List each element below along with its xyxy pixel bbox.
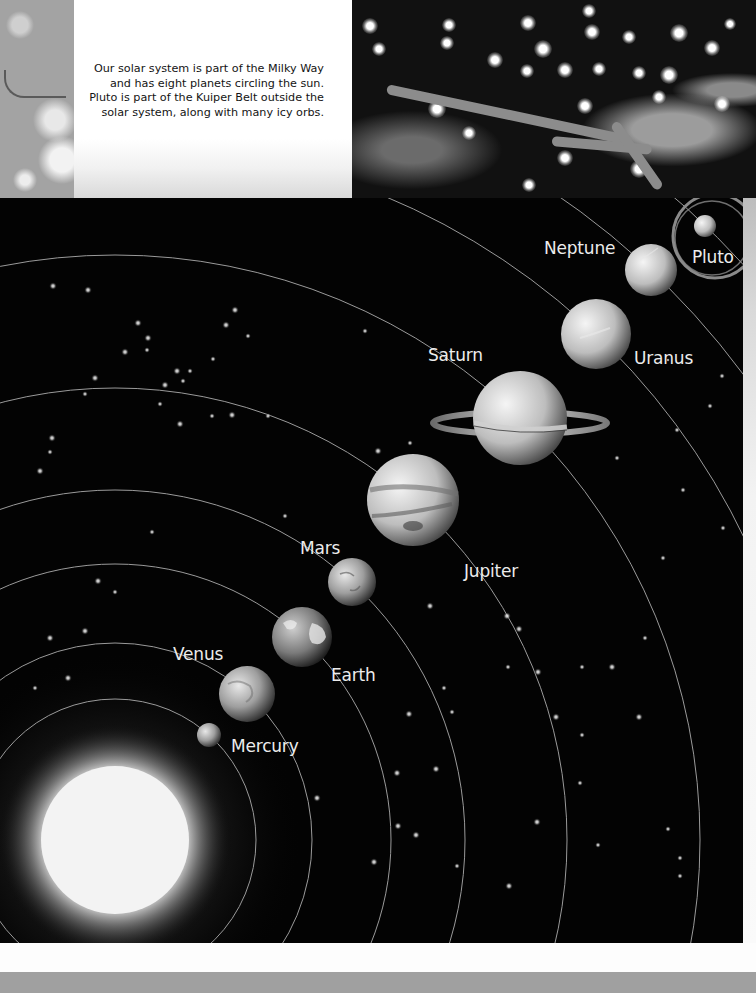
- intro-box: Our solar system is part of the Milky Wa…: [74, 0, 352, 198]
- intro-text: Our solar system is part of the Milky Wa…: [84, 62, 324, 120]
- comet-trail: [610, 120, 664, 191]
- star: [577, 98, 593, 114]
- star: [582, 4, 596, 18]
- star: [714, 96, 730, 112]
- star: [520, 64, 534, 78]
- star: [557, 62, 573, 78]
- decorative-texture-right: [743, 198, 756, 943]
- label-uranus: Uranus: [634, 348, 693, 368]
- planet-pluto: [694, 215, 716, 237]
- star: [522, 178, 536, 192]
- bottom-gray-band: [0, 972, 756, 993]
- decorative-starfield-top: [352, 0, 756, 198]
- star: [487, 52, 503, 68]
- bottom-margin: [0, 943, 756, 972]
- label-saturn: Saturn: [428, 345, 483, 365]
- texture-crack: [4, 70, 66, 98]
- star: [520, 15, 536, 31]
- label-mercury: Mercury: [231, 736, 299, 756]
- star: [372, 42, 386, 56]
- solar-system-diagram: Mercury Venus Earth Mars Jupiter Saturn …: [0, 198, 743, 943]
- label-mars: Mars: [300, 538, 340, 558]
- label-venus: Venus: [173, 644, 223, 664]
- star: [632, 66, 646, 80]
- planet-mars: [328, 558, 376, 606]
- star: [534, 40, 552, 58]
- decorative-texture-left: [0, 0, 74, 200]
- comet-trail: [386, 84, 633, 146]
- star: [592, 62, 606, 76]
- label-pluto: Pluto: [692, 247, 734, 267]
- planet-saturn: [433, 371, 607, 465]
- label-neptune: Neptune: [544, 238, 615, 258]
- star: [622, 30, 636, 44]
- star: [462, 126, 476, 140]
- star: [724, 18, 736, 30]
- planet-mercury: [197, 723, 221, 747]
- planet-uranus: [561, 299, 631, 369]
- planet-jupiter: [367, 454, 459, 546]
- star: [442, 18, 456, 32]
- planet-neptune: [625, 244, 677, 296]
- star: [362, 18, 378, 34]
- star: [670, 24, 688, 42]
- star: [557, 150, 573, 166]
- star: [584, 24, 600, 40]
- star: [660, 66, 678, 84]
- star: [652, 90, 666, 104]
- label-earth: Earth: [331, 665, 376, 685]
- sun: [41, 766, 189, 914]
- planet-earth: [272, 607, 332, 667]
- label-jupiter: Jupiter: [464, 561, 518, 581]
- solar-system-graphic: [0, 198, 743, 943]
- star: [704, 40, 720, 56]
- planet-venus: [219, 666, 275, 722]
- star: [440, 36, 454, 50]
